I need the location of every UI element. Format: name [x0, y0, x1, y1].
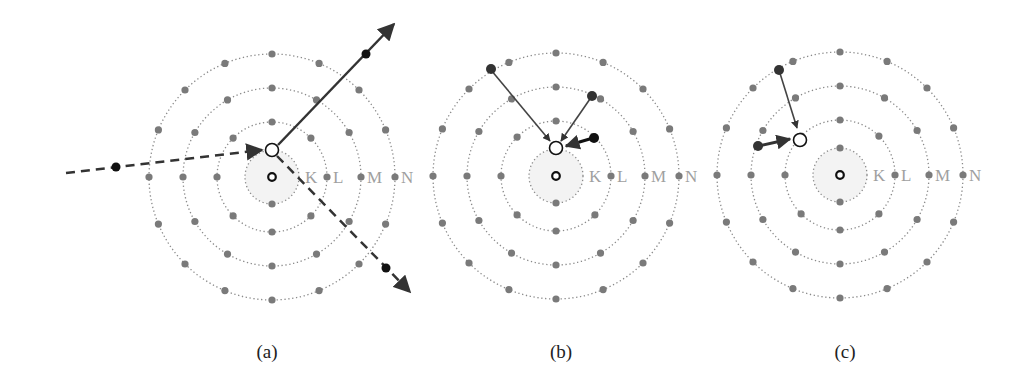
electron: [346, 129, 353, 136]
shell-label-M: M: [935, 166, 950, 185]
electron: [836, 260, 843, 267]
electron: [630, 128, 637, 135]
electron: [181, 260, 188, 267]
electron: [307, 212, 314, 219]
electron: [224, 96, 231, 103]
electron: [591, 211, 598, 218]
electron: [597, 250, 604, 257]
electron: [316, 287, 323, 294]
shell-label-N: N: [401, 168, 413, 187]
electron: [439, 125, 446, 132]
electron: [552, 117, 559, 124]
electron: [597, 95, 604, 102]
vacancy: [550, 142, 563, 155]
electron: [221, 287, 228, 294]
electron: [884, 58, 891, 65]
electron: [723, 124, 730, 131]
electron: [463, 172, 470, 179]
electron: [836, 82, 843, 89]
vacancy: [794, 134, 807, 147]
electron: [191, 129, 198, 136]
shell-label-K: K: [305, 168, 318, 187]
shell-label-L: L: [333, 168, 343, 187]
electron: [950, 219, 957, 226]
electron: [357, 173, 364, 180]
electron: [607, 172, 614, 179]
electron: [836, 226, 843, 233]
caption-c: (c): [834, 341, 855, 363]
electron: [465, 85, 472, 92]
electron: [759, 216, 766, 223]
nucleus: [268, 173, 276, 181]
electron: [884, 285, 891, 292]
electron: [914, 216, 921, 223]
electron: [508, 250, 515, 257]
electron: [875, 133, 882, 140]
electron: [781, 171, 788, 178]
electron: [268, 118, 275, 125]
electron: [475, 128, 482, 135]
transition-m-arrow: [759, 139, 790, 146]
electron: [230, 135, 237, 142]
electron: [914, 127, 921, 134]
electron: [181, 86, 188, 93]
electron: [836, 198, 843, 205]
electron: [875, 210, 882, 217]
electron: [439, 220, 446, 227]
electron: [713, 171, 720, 178]
electron: [600, 59, 607, 66]
electron: [465, 259, 472, 266]
electron: [221, 60, 228, 67]
electron: [792, 94, 799, 101]
nucleus: [836, 171, 844, 179]
electron: [881, 94, 888, 101]
electron: [552, 83, 559, 90]
electron: [268, 228, 275, 235]
electron: [789, 58, 796, 65]
electron: [355, 86, 362, 93]
electron: [505, 59, 512, 66]
panel-c-arrows: [753, 65, 797, 151]
electron: [792, 249, 799, 256]
electron: [355, 260, 362, 267]
electron: [836, 116, 843, 123]
electron: [959, 171, 966, 178]
electron: [382, 126, 389, 133]
electron: [747, 171, 754, 178]
electron: [641, 172, 648, 179]
panel-b: KLMN: [429, 49, 697, 302]
electron: [429, 172, 436, 179]
electron: [307, 135, 314, 142]
electron: [759, 127, 766, 134]
transition-l-arrow: [566, 138, 593, 146]
electron: [836, 144, 843, 151]
electron: [313, 251, 320, 258]
l-shell-electron: [589, 133, 599, 143]
electron: [268, 200, 275, 207]
shell-label-K: K: [873, 166, 886, 185]
electron: [639, 85, 646, 92]
nucleus: [552, 172, 560, 180]
electron: [514, 134, 521, 141]
electron: [145, 173, 152, 180]
electron: [881, 249, 888, 256]
electron: [925, 171, 932, 178]
electron: [600, 286, 607, 293]
electron: [155, 126, 162, 133]
panel-a: KLMN: [145, 50, 413, 303]
electron: [224, 251, 231, 258]
electron: [268, 262, 275, 269]
electron: [213, 173, 220, 180]
shell-label-M: M: [367, 168, 382, 187]
electron: [230, 212, 237, 219]
electron: [268, 84, 275, 91]
electron: [552, 261, 559, 268]
electron: [268, 296, 275, 303]
electron: [639, 259, 646, 266]
electron: [346, 218, 353, 225]
electron: [789, 285, 796, 292]
transition-n-arrow: [491, 70, 550, 141]
atomic-shell-diagram: KLMNKLMNKLMN: [0, 0, 1028, 386]
electron: [155, 221, 162, 228]
electron: [268, 50, 275, 57]
